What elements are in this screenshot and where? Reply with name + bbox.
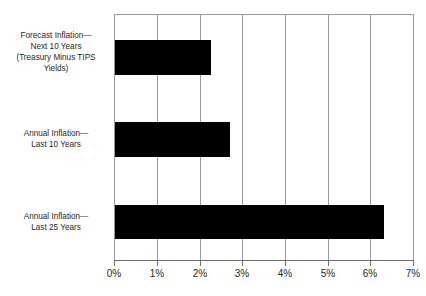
category-label-line: Next 10 Years xyxy=(0,41,112,52)
tick-mark-2pct xyxy=(200,261,201,266)
category-label-line: Forecast Inflation— xyxy=(0,30,112,41)
bar-annual-inflation-last-25-years xyxy=(115,205,384,239)
x-tick-label-3pct: 3% xyxy=(222,268,262,280)
x-tick-label-2pct: 2% xyxy=(180,268,220,280)
x-tick-label-4pct: 4% xyxy=(265,268,305,280)
x-tick-label-7pct: 7% xyxy=(393,268,426,280)
gridline-7pct xyxy=(413,14,414,260)
x-tick-label-0pct: 0% xyxy=(94,268,134,280)
tick-mark-3pct xyxy=(242,261,243,266)
tick-mark-7pct xyxy=(413,261,414,266)
category-label-line: Last 25 Years xyxy=(0,222,112,233)
tick-mark-1pct xyxy=(157,261,158,266)
x-tick-label-6pct: 6% xyxy=(350,268,390,280)
tick-mark-5pct xyxy=(328,261,329,266)
category-label-annual-inflation-last-25: Annual Inflation— Last 25 Years xyxy=(0,211,112,233)
category-label-line: Yields) xyxy=(0,63,112,74)
inflation-bar-chart: 0% 1% 2% 3% 4% 5% 6% 7% Forecast Inflati… xyxy=(0,0,426,296)
category-label-forecast-inflation: Forecast Inflation— Next 10 Years (Treas… xyxy=(0,30,112,74)
category-label-annual-inflation-last-10: Annual Inflation— Last 10 Years xyxy=(0,128,112,150)
x-tick-label-5pct: 5% xyxy=(308,268,348,280)
tick-mark-4pct xyxy=(285,261,286,266)
category-label-line: Last 10 Years xyxy=(0,139,112,150)
category-label-line: (Treasury Minus TIPS xyxy=(0,52,112,63)
category-label-line: Annual Inflation— xyxy=(0,128,112,139)
x-axis-line xyxy=(114,260,414,261)
x-tick-label-1pct: 1% xyxy=(137,268,177,280)
tick-mark-6pct xyxy=(370,261,371,266)
tick-mark-0pct xyxy=(114,261,115,266)
bar-forecast-inflation-next-10-years xyxy=(115,40,211,75)
category-label-line: Annual Inflation— xyxy=(0,211,112,222)
bar-annual-inflation-last-10-years xyxy=(115,122,230,157)
